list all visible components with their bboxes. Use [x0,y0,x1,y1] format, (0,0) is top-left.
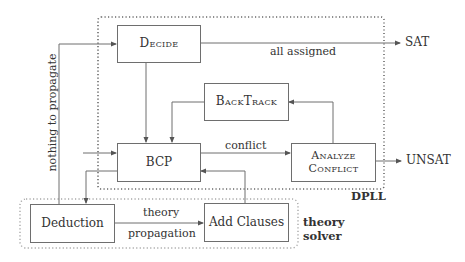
node-backtrack: BackTrack [204,83,289,121]
output-sat: SAT [405,35,429,49]
node-analyze-conflict-label-line2: Conflict [309,163,359,176]
group-label-theory-solver-line2: solver [303,230,344,244]
node-analyze-conflict: Analyze Conflict [291,143,376,182]
edge-bcp-deduction [86,171,117,203]
edge-deduction-decide [59,44,116,204]
dpll-t-diagram: Decide BackTrack BCP Analyze Conflict De… [0,0,465,262]
node-analyze-conflict-label-line1: Analyze [311,150,355,163]
edge-label-propagation: propagation [128,227,196,240]
node-deduction-label: Deduction [41,217,103,231]
output-unsat: UNSAT [406,153,451,167]
node-add-clauses: Add Clauses [204,203,289,242]
node-bcp-label: BCP [146,156,172,170]
group-label-theory-solver-line1: theory [303,216,344,230]
edge-label-all-assigned: all assigned [270,45,336,58]
node-decide: Decide [117,25,201,63]
edge-label-conflict: conflict [225,139,266,152]
node-bcp: BCP [117,143,201,182]
edge-analyze-backtrack [289,102,333,143]
edge-label-nothing-to-propagate: nothing to propagate [46,53,59,173]
group-label-dpll: DPLL [351,190,386,204]
node-deduction: Deduction [30,204,115,243]
edge-backtrack-bcp [172,102,204,142]
group-label-theory-solver: theory solver [303,216,344,244]
node-decide-label: Decide [140,37,179,51]
edge-label-theory: theory [143,206,179,219]
edge-addclauses-bcp [201,171,245,203]
node-backtrack-label: BackTrack [216,95,277,109]
node-add-clauses-label: Add Clauses [209,216,284,230]
